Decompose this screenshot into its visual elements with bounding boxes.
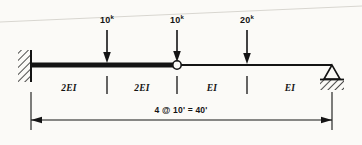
load-arrow-p1	[103, 30, 111, 63]
internal-hinge	[173, 61, 181, 69]
load-arrow-p3	[243, 30, 251, 64]
stiffness-label-seg1: 2EI	[61, 84, 77, 94]
pin-support-right	[320, 65, 344, 90]
load-magnitude-p2: 10	[170, 15, 180, 25]
beam-segment-2ei	[31, 63, 177, 68]
stiffness-label-seg3: EI	[207, 84, 218, 94]
stiffness-label-seg4: EI	[285, 84, 296, 94]
load-label-p2: 10k	[170, 16, 184, 25]
dimension-arrow-left	[31, 117, 42, 123]
stiffness-label-seg2: 2EI	[134, 84, 150, 94]
load-label-p3: 20k	[240, 16, 254, 25]
load-arrow-p2	[173, 30, 181, 62]
dimension-label: 4 @ 10' = 40'	[152, 106, 211, 115]
segment-divider-ticks	[107, 76, 247, 94]
load-magnitude-p3: 20	[240, 15, 250, 25]
dimension-arrow-right	[321, 117, 332, 123]
beam-segment-ei	[177, 64, 332, 66]
fixed-support-left	[18, 50, 31, 82]
load-label-p1: 10k	[100, 16, 114, 25]
beam-diagram-figure: 10k 10k 20k 2EI 2EI EI EI 4 @ 10' = 40'	[0, 0, 362, 145]
load-unit-p1: k	[110, 14, 114, 20]
load-unit-p2: k	[180, 14, 184, 20]
load-magnitude-p1: 10	[100, 15, 110, 25]
load-unit-p3: k	[250, 14, 254, 20]
